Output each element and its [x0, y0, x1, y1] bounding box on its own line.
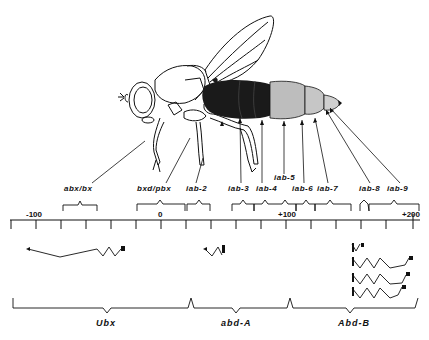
map-scale — [10, 214, 420, 229]
leader-lines — [92, 108, 400, 183]
legs — [153, 114, 258, 172]
region-label-iab-3: iab-3 — [228, 184, 249, 193]
region-label-iab-8: iab-8 — [359, 184, 380, 193]
fly-diagram — [0, 0, 429, 340]
region-label-bxd-pbx: bxd/pbx — [137, 184, 171, 193]
head — [118, 82, 155, 123]
region-label-abx-bx: abx/bx — [64, 184, 92, 193]
ubx-transcript — [28, 247, 121, 257]
abd-a-transcript — [205, 247, 222, 256]
region-label-iab-9: iab-9 — [387, 184, 408, 193]
scale-tick-plus-200: +200 — [402, 210, 420, 219]
abd-b-transcript-4 — [352, 287, 402, 298]
region-label-iab-7: iab-7 — [317, 184, 338, 193]
region-label-iab-6: iab-6 — [292, 184, 313, 193]
abdomen — [202, 78, 342, 119]
abd-b-transcript-3 — [352, 274, 406, 284]
scale-tick-minus-100: -100 — [26, 210, 42, 219]
region-braces — [63, 200, 419, 211]
abd-b-transcript-2 — [352, 258, 409, 268]
gene-label-ubx: Ubx — [96, 318, 116, 328]
gene-braces — [13, 298, 418, 313]
region-label-iab-5: iab-5 — [274, 173, 295, 182]
scale-tick-0: 0 — [158, 210, 162, 219]
region-label-iab-2: iab-2 — [186, 184, 207, 193]
transcripts — [28, 244, 409, 298]
gene-label-abd-b: Abd-B — [338, 318, 370, 328]
wing — [205, 16, 274, 85]
region-label-iab-4: iab-4 — [256, 184, 277, 193]
gene-label-abd-a: abd-A — [221, 318, 252, 328]
scale-tick-plus-100: +100 — [278, 210, 296, 219]
